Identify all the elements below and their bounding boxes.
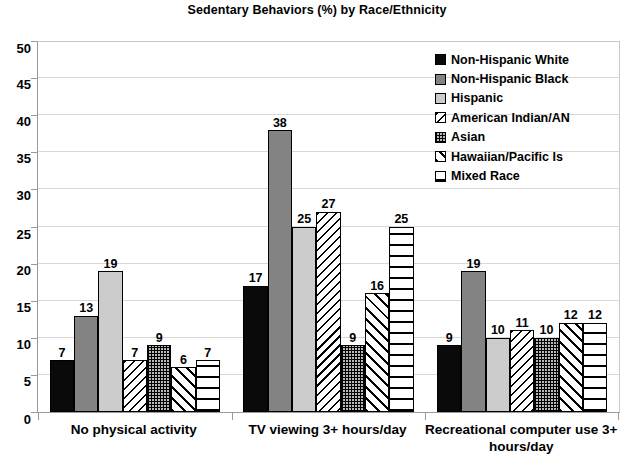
y-axis-tick xyxy=(31,338,37,339)
x-axis-category-label: TV viewing 3+ hours/day xyxy=(231,421,425,438)
y-axis-tick-label: 35 xyxy=(0,152,31,153)
y-axis-tick-label: 10 xyxy=(0,337,31,338)
bar: 25 xyxy=(292,227,316,413)
y-axis-tick xyxy=(31,301,37,302)
bar: 10 xyxy=(486,338,510,412)
x-axis-tick xyxy=(425,413,426,420)
bar: 12 xyxy=(583,323,607,412)
y-axis-tick-label: 25 xyxy=(0,226,31,227)
chart-legend: Non-Hispanic WhiteNon-Hispanic BlackHisp… xyxy=(435,50,625,186)
bar: 7 xyxy=(50,360,74,412)
y-axis-tick xyxy=(31,189,37,190)
bar-value-label: 6 xyxy=(180,354,187,367)
bar: 19 xyxy=(98,271,122,412)
y-axis-tick xyxy=(31,227,37,228)
bar-value-label: 10 xyxy=(491,324,505,337)
bar: 10 xyxy=(534,338,558,412)
bar: 27 xyxy=(316,212,340,412)
x-axis-category-label: Recreational computer use 3+ hours/day xyxy=(424,421,618,455)
y-axis-tick xyxy=(31,78,37,79)
legend-item[interactable]: Asian xyxy=(435,128,625,147)
bar: 38 xyxy=(268,130,292,412)
y-axis-tick-label: 15 xyxy=(0,300,31,301)
bar: 17 xyxy=(243,286,267,412)
y-axis-tick xyxy=(31,264,37,265)
bar-value-label: 7 xyxy=(58,347,65,360)
bar-value-label: 17 xyxy=(249,272,263,285)
bar-value-label: 12 xyxy=(564,309,578,322)
x-axis-tick xyxy=(38,413,39,420)
bar: 9 xyxy=(437,345,461,412)
y-axis-tick xyxy=(31,375,37,376)
legend-label: American Indian/AN xyxy=(451,111,570,125)
y-axis-tick-label: 20 xyxy=(0,263,31,264)
legend-item[interactable]: Hawaiian/Pacific Is xyxy=(435,147,625,166)
y-axis-tick-label: 45 xyxy=(0,78,31,79)
bar: 6 xyxy=(171,367,195,412)
y-axis-tick-label: 30 xyxy=(0,189,31,190)
bar-value-label: 9 xyxy=(349,332,356,345)
legend-item[interactable]: American Indian/AN xyxy=(435,108,625,127)
bar-value-label: 25 xyxy=(297,213,311,226)
y-axis: 05101520253035404550 xyxy=(0,41,31,413)
bar: 11 xyxy=(510,330,534,412)
legend-label: Asian xyxy=(451,130,485,144)
bar-value-label: 13 xyxy=(79,302,93,315)
bar: 7 xyxy=(123,360,147,412)
legend-item[interactable]: Hispanic xyxy=(435,89,625,108)
bar-group: 1738252791625 xyxy=(232,41,426,412)
legend-item[interactable]: Mixed Race xyxy=(435,166,625,185)
bar-value-label: 9 xyxy=(156,332,163,345)
bar-value-label: 9 xyxy=(446,332,453,345)
x-axis-ticks xyxy=(37,413,620,420)
bar: 9 xyxy=(341,345,365,412)
legend-label: Non-Hispanic Black xyxy=(451,72,568,86)
bar: 7 xyxy=(196,360,220,412)
bar: 25 xyxy=(389,227,413,413)
bar: 12 xyxy=(559,323,583,412)
bar: 19 xyxy=(461,271,485,412)
bar: 13 xyxy=(74,316,98,412)
legend-item[interactable]: Non-Hispanic Black xyxy=(435,69,625,88)
legend-label: Mixed Race xyxy=(451,169,520,183)
bar-value-label: 27 xyxy=(322,198,336,211)
bar-group: 713197967 xyxy=(38,41,232,412)
bar-value-label: 12 xyxy=(588,309,602,322)
bar-value-label: 7 xyxy=(204,347,211,360)
legend-swatch-icon xyxy=(435,151,446,162)
chart-title: Sedentary Behaviors (%) by Race/Ethnicit… xyxy=(0,3,634,17)
legend-swatch-icon xyxy=(435,54,446,65)
bar-value-label: 16 xyxy=(370,280,384,293)
bar-value-label: 7 xyxy=(131,347,138,360)
y-axis-tick-label: 0 xyxy=(0,412,31,413)
bar-value-label: 19 xyxy=(467,258,481,271)
legend-item[interactable]: Non-Hispanic White xyxy=(435,50,625,69)
y-axis-tick xyxy=(31,41,37,42)
x-axis-tick xyxy=(232,413,233,420)
x-axis-category-label: No physical activity xyxy=(37,421,231,438)
chart-container: Sedentary Behaviors (%) by Race/Ethnicit… xyxy=(0,0,634,464)
bar: 9 xyxy=(147,345,171,412)
bar-value-label: 11 xyxy=(516,317,529,330)
legend-swatch-icon xyxy=(435,74,446,85)
legend-swatch-icon xyxy=(435,171,446,182)
y-axis-tick xyxy=(31,115,37,116)
legend-label: Non-Hispanic White xyxy=(451,53,569,67)
y-axis-tick xyxy=(31,152,37,153)
legend-swatch-icon xyxy=(435,93,446,104)
bar-value-label: 10 xyxy=(539,324,553,337)
x-axis-labels: No physical activityTV viewing 3+ hours/… xyxy=(37,421,620,464)
y-axis-tick-label: 5 xyxy=(0,374,31,375)
legend-label: Hawaiian/Pacific Is xyxy=(451,150,563,164)
bar-value-label: 19 xyxy=(104,258,118,271)
legend-label: Hispanic xyxy=(451,91,503,105)
y-axis-tick-label: 40 xyxy=(0,115,31,116)
bar-value-label: 25 xyxy=(394,213,408,226)
bar-value-label: 38 xyxy=(273,117,287,130)
legend-swatch-icon xyxy=(435,112,446,123)
bar: 16 xyxy=(365,293,389,412)
y-axis-tick-label: 50 xyxy=(0,41,31,42)
x-axis-tick xyxy=(618,413,619,420)
legend-swatch-icon xyxy=(435,132,446,143)
